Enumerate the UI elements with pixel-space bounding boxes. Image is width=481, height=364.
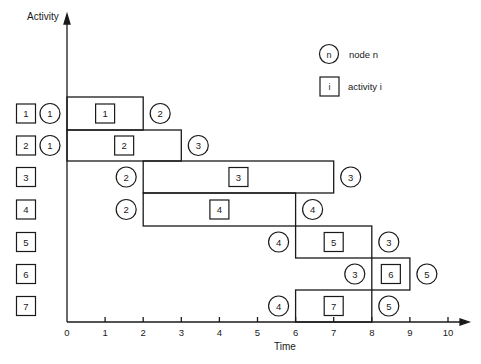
svg-text:3: 3 (352, 269, 357, 280)
end-node: 4 (303, 200, 323, 220)
start-node: 4 (269, 296, 289, 316)
end-node: 3 (188, 136, 208, 156)
start-node: 3 (345, 264, 365, 284)
x-axis-arrow-icon (460, 319, 469, 325)
end-node: 3 (341, 167, 361, 187)
activity-square: 7 (324, 297, 343, 316)
svg-text:7: 7 (331, 301, 336, 312)
end-node: 3 (379, 232, 399, 252)
node-legend-symbol: n (326, 50, 331, 60)
row-activity-label: 7 (17, 297, 36, 316)
svg-text:5: 5 (424, 269, 429, 280)
activity-square: 4 (210, 200, 229, 219)
svg-text:3: 3 (236, 172, 241, 183)
x-tick-label: 3 (179, 327, 184, 338)
row-activity-label: 5 (17, 233, 36, 252)
end-node: 2 (150, 104, 170, 124)
row-activity-label: 6 (17, 265, 36, 284)
svg-text:6: 6 (23, 269, 28, 280)
svg-text:3: 3 (386, 237, 391, 248)
activity-square: 2 (115, 136, 134, 155)
x-tick-label: 0 (64, 327, 69, 338)
y-axis-arrow-icon (64, 14, 70, 24)
y-axis-label: Activity (27, 11, 59, 22)
start-node: 2 (116, 200, 136, 220)
svg-text:6: 6 (388, 269, 393, 280)
svg-text:5: 5 (23, 237, 28, 248)
start-node: 1 (40, 136, 60, 156)
svg-text:2: 2 (122, 140, 127, 151)
svg-text:5: 5 (331, 237, 336, 248)
activity-square: 1 (96, 104, 115, 123)
svg-text:2: 2 (158, 108, 163, 119)
svg-text:5: 5 (386, 301, 391, 312)
svg-text:3: 3 (23, 172, 28, 183)
svg-text:7: 7 (23, 301, 28, 312)
x-tick-label: 1 (102, 327, 107, 338)
svg-text:2: 2 (124, 204, 129, 215)
svg-text:4: 4 (310, 204, 315, 215)
x-tick-label: 10 (443, 327, 454, 338)
svg-text:4: 4 (23, 204, 28, 215)
row-activity-label: 1 (17, 104, 36, 123)
x-axis-label: Time (274, 341, 296, 352)
end-node: 5 (379, 296, 399, 316)
svg-text:1: 1 (47, 108, 52, 119)
svg-text:2: 2 (23, 140, 28, 151)
x-tick-label: 9 (407, 327, 412, 338)
row-activity-label: 3 (17, 168, 36, 187)
svg-text:1: 1 (102, 108, 107, 119)
start-node: 2 (116, 167, 136, 187)
x-tick-label: 2 (141, 327, 146, 338)
start-node: 4 (269, 232, 289, 252)
x-tick-label: 5 (255, 327, 260, 338)
activity-legend-symbol: i (329, 82, 331, 92)
activity-square: 6 (381, 265, 400, 284)
svg-text:1: 1 (23, 108, 28, 119)
svg-text:1: 1 (47, 140, 52, 151)
svg-text:2: 2 (124, 172, 129, 183)
activity-square: 5 (324, 233, 343, 252)
legend: n node n i activity i (320, 45, 382, 97)
row-activity-label: 4 (17, 200, 36, 219)
svg-text:4: 4 (276, 237, 281, 248)
x-tick-label: 4 (217, 327, 222, 338)
x-tick-label: 7 (331, 327, 336, 338)
row-activity-label: 2 (17, 136, 36, 155)
start-node: 1 (40, 104, 60, 124)
end-node: 5 (417, 264, 437, 284)
svg-text:3: 3 (196, 140, 201, 151)
labels: 0123456789101112221333234424554366357745 (17, 104, 454, 339)
node-legend-label: node n (349, 49, 378, 60)
activity-legend-label: activity i (348, 81, 382, 92)
activity-square: 3 (229, 168, 248, 187)
svg-text:4: 4 (217, 204, 222, 215)
x-tick-label: 6 (293, 327, 298, 338)
svg-text:4: 4 (276, 301, 281, 312)
svg-text:3: 3 (348, 172, 353, 183)
activity-time-diagram: 0123456789101112221333234424554366357745… (0, 0, 481, 364)
x-tick-label: 8 (369, 327, 374, 338)
